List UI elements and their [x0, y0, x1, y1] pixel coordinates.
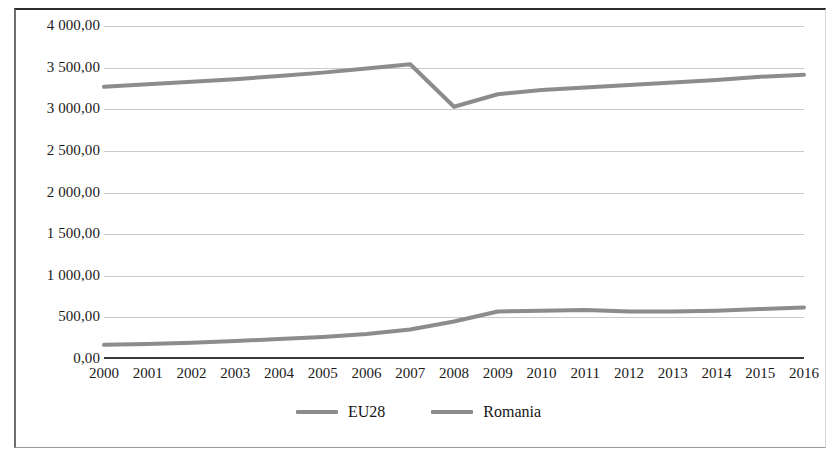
y-axis-tick-label: 0,00 — [8, 351, 100, 366]
y-axis-tick-label: 1 500,00 — [8, 226, 100, 241]
legend-line-swatch-icon — [431, 410, 473, 414]
legend-entry-eu28[interactable]: EU28 — [296, 404, 385, 420]
chart-figure: 0,00500,001 000,001 500,002 000,002 500,… — [0, 0, 837, 455]
legend-line-swatch-icon — [296, 410, 338, 414]
x-axis-tick-label: 2008 — [439, 366, 469, 381]
y-axis-tick-label: 500,00 — [8, 309, 100, 324]
x-axis-tick-label: 2011 — [571, 366, 600, 381]
y-axis-tick-labels: 0,00500,001 000,001 500,002 000,002 500,… — [4, 26, 100, 359]
y-axis-tick-label: 1 000,00 — [8, 268, 100, 283]
plot-area — [104, 26, 804, 359]
y-axis-tick-label: 4 000,00 — [8, 18, 100, 33]
x-axis-tick-label: 2006 — [352, 366, 382, 381]
x-axis-tick-label: 2012 — [614, 366, 644, 381]
x-axis-tick-label: 2014 — [702, 366, 732, 381]
x-axis-tick-label: 2013 — [658, 366, 688, 381]
chart-legend: EU28Romania — [0, 404, 837, 420]
y-axis-tick-label: 2 000,00 — [8, 185, 100, 200]
legend-label: EU28 — [348, 404, 385, 420]
x-axis-tick-label: 2007 — [395, 366, 425, 381]
x-axis-tick-label: 2003 — [220, 366, 250, 381]
line-series-eu28 — [104, 64, 804, 106]
line-series-romania — [104, 307, 804, 344]
legend-label: Romania — [483, 404, 541, 420]
line-series-canvas — [104, 26, 804, 359]
y-axis-tick-label: 3 000,00 — [8, 101, 100, 116]
x-axis-tick-label: 2004 — [264, 366, 294, 381]
x-axis-tick-label: 2005 — [308, 366, 338, 381]
x-axis-tick-label: 2002 — [177, 366, 207, 381]
x-axis-tick-label: 2010 — [527, 366, 557, 381]
y-axis-tick-label: 2 500,00 — [8, 143, 100, 158]
y-axis-tick-label: 3 500,00 — [8, 60, 100, 75]
x-axis-tick-label: 2001 — [133, 366, 163, 381]
x-axis-tick-labels: 2000200120022003200420052006200720082009… — [104, 366, 804, 388]
x-axis-tick-label: 2009 — [483, 366, 513, 381]
x-axis-tick-label: 2015 — [745, 366, 775, 381]
x-axis-tick-label: 2000 — [89, 366, 119, 381]
x-axis-tick-label: 2016 — [789, 366, 819, 381]
legend-entry-romania[interactable]: Romania — [431, 404, 541, 420]
